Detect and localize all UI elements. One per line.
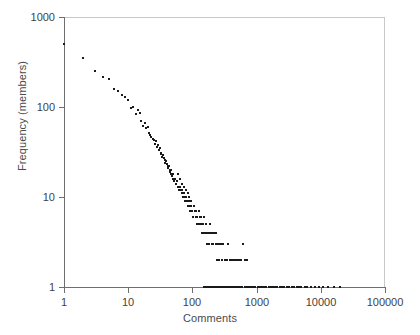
- scatter-point: [144, 122, 146, 124]
- scatter-point: [179, 186, 181, 188]
- scatter-point: [318, 286, 320, 288]
- scatter-point: [108, 78, 110, 80]
- scatter-point: [94, 70, 96, 72]
- scatter-point: [157, 144, 159, 146]
- scatter-points-layer: [0, 0, 420, 335]
- scatter-point: [173, 180, 175, 182]
- scatter-point: [200, 216, 202, 218]
- scatter-point: [322, 286, 324, 288]
- scatter-point: [183, 192, 185, 194]
- scatter-point: [187, 192, 189, 194]
- scatter-point: [227, 243, 229, 245]
- scatter-point: [127, 99, 129, 101]
- scatter-point: [240, 259, 242, 261]
- scatter-point: [211, 232, 213, 234]
- scatter-point: [310, 286, 312, 288]
- scatter-point: [132, 106, 134, 108]
- scatter-point: [162, 154, 164, 156]
- scatter-point: [175, 183, 177, 185]
- scatter-point: [177, 173, 179, 175]
- scatter-point: [139, 112, 141, 114]
- scatter-point: [82, 57, 84, 59]
- scatter-point: [185, 196, 187, 198]
- scatter-point: [154, 143, 156, 145]
- scatter-point: [222, 243, 224, 245]
- scatter-point: [208, 243, 210, 245]
- scatter-point: [135, 113, 137, 115]
- scatter-point: [215, 232, 217, 234]
- scatter-point: [226, 259, 228, 261]
- scatter-point: [181, 183, 183, 185]
- scatter-point: [304, 286, 306, 288]
- scatter-point: [202, 223, 204, 225]
- scatter-point: [159, 147, 161, 149]
- scatter-point: [63, 43, 65, 45]
- scatter-point: [188, 196, 190, 198]
- scatter-point: [165, 160, 167, 162]
- scatter-point: [183, 186, 185, 188]
- scatter-point: [193, 205, 195, 207]
- scatter-point: [102, 76, 104, 78]
- scatter-point: [300, 286, 302, 288]
- scatter-point: [124, 96, 126, 98]
- scatter-point: [156, 146, 158, 148]
- scatter-point: [117, 90, 119, 92]
- scatter-point: [168, 165, 170, 167]
- scatter-point: [170, 169, 172, 171]
- scatter-point: [218, 259, 220, 261]
- chart-figure: 1000 100 10 1 1 10 100 1000 10000 100000…: [0, 0, 420, 335]
- scatter-point: [140, 120, 142, 122]
- scatter-point: [121, 94, 123, 96]
- scatter-point: [339, 286, 341, 288]
- scatter-point: [142, 125, 144, 127]
- scatter-point: [306, 286, 308, 288]
- scatter-point: [172, 173, 174, 175]
- scatter-point: [203, 216, 205, 218]
- scatter-point: [333, 286, 335, 288]
- scatter-point: [221, 259, 223, 261]
- scatter-point: [205, 223, 207, 225]
- scatter-point: [246, 259, 248, 261]
- scatter-point: [176, 180, 178, 182]
- scatter-point: [147, 126, 149, 128]
- scatter-point: [113, 88, 115, 90]
- scatter-point: [185, 189, 187, 191]
- scatter-point: [327, 286, 329, 288]
- scatter-point: [155, 140, 157, 142]
- scatter-point: [137, 109, 139, 111]
- scatter-point: [293, 286, 295, 288]
- scatter-point: [242, 243, 244, 245]
- scatter-point: [179, 178, 181, 180]
- scatter-point: [314, 286, 316, 288]
- scatter-point: [198, 210, 200, 212]
- scatter-point: [190, 200, 192, 202]
- scatter-point: [218, 243, 220, 245]
- scatter-point: [209, 223, 211, 225]
- scatter-point: [181, 189, 183, 191]
